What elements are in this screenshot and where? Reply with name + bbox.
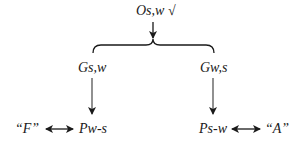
diagram-connectors [0,0,307,144]
top-node: Os,w √ [136,3,176,19]
left-result: Pw-s [79,121,107,137]
brace [93,39,214,53]
check-icon: √ [168,3,176,18]
left-node: Gs,w [78,60,106,76]
left-outcome: “F” [15,121,39,137]
right-outcome: “A” [265,121,289,137]
top-node-label: Os,w [136,3,164,18]
right-result: Ps-w [199,121,227,137]
right-node: Gw,s [200,60,227,76]
